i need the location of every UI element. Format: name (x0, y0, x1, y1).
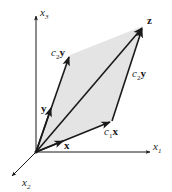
x2-axis-label: x2 (21, 176, 31, 191)
vector-parallelogram-diagram: x3 x1 x2 c2y y z c2y c1x x (0, 0, 172, 192)
c1x-label: c1x (104, 125, 118, 140)
c2y-left-label: c2y (51, 46, 65, 61)
origin-point (34, 150, 37, 153)
x2-axis (12, 152, 36, 176)
x1-axis-label: x1 (152, 140, 161, 155)
x3-axis-label: x3 (39, 6, 49, 21)
x-label: x (64, 139, 70, 151)
y-label: y (41, 102, 47, 114)
c2y-right-label: c2y (132, 67, 146, 82)
z-label: z (147, 14, 152, 26)
